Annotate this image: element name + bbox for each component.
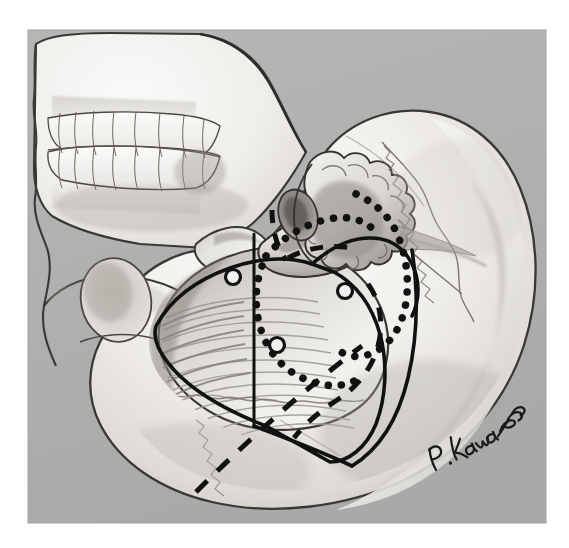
molar-shadow [174,150,226,194]
burr-hole-anterior-superior [226,270,241,285]
burr-hole-posterior-superior [338,284,353,299]
skull-illustration: Lateral skull with surgical approach mar… [0,0,569,548]
figure-root: Lateral skull with surgical approach mar… [0,0,569,548]
burr-hole-inferior [270,338,285,353]
